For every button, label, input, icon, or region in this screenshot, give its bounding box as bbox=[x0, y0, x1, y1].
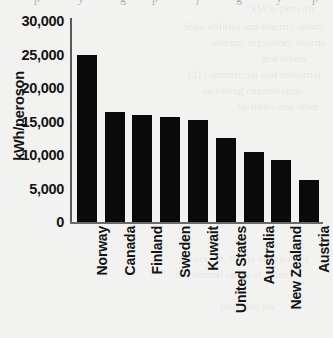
x-tick-label: Finland bbox=[149, 226, 165, 336]
bar bbox=[77, 55, 97, 223]
x-axis-tick-labels: NorwayCanadaFinlandSwedenKuwaitUnited St… bbox=[73, 226, 323, 336]
bar bbox=[271, 160, 291, 222]
y-tick-label: 15,000 bbox=[14, 114, 64, 130]
bar-chart: kWh/peroson 30,00025,00020,00015,00010,0… bbox=[0, 0, 333, 338]
y-tick-label: 20,000 bbox=[14, 80, 64, 96]
y-tick-label: 30,000 bbox=[14, 13, 64, 29]
x-tick-label: Australia bbox=[261, 226, 277, 336]
bar bbox=[188, 120, 208, 222]
x-tick-label: New Zealand bbox=[288, 226, 304, 336]
y-tick-label: 0 bbox=[14, 214, 64, 230]
x-axis-line bbox=[70, 222, 323, 224]
x-tick-label: Canada bbox=[122, 226, 138, 336]
y-axis-line bbox=[70, 18, 72, 224]
x-tick-label: United States bbox=[233, 226, 249, 336]
x-tick-label: Norway bbox=[94, 226, 110, 336]
x-tick-label: Kuwait bbox=[205, 226, 221, 336]
bar bbox=[160, 117, 180, 222]
x-tick-label: Austria bbox=[316, 226, 332, 336]
bar bbox=[299, 180, 319, 222]
y-axis-tick-labels: 30,00025,00020,00015,00010,0005,0000 bbox=[14, 0, 64, 338]
y-tick-label: 5,000 bbox=[14, 181, 64, 197]
bar bbox=[244, 152, 264, 222]
bar bbox=[132, 115, 152, 222]
bar bbox=[105, 112, 125, 222]
y-tick-label: 25,000 bbox=[14, 47, 64, 63]
y-tick-label: 10,000 bbox=[14, 147, 64, 163]
x-tick-label: Sweden bbox=[177, 226, 193, 336]
plot-area bbox=[73, 21, 323, 222]
bar bbox=[216, 138, 236, 222]
